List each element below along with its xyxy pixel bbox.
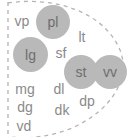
node-label: dl — [54, 82, 65, 96]
node-label: lt — [79, 30, 86, 44]
node-label: mg — [15, 82, 34, 96]
node-label: pl — [48, 15, 59, 29]
node-label: st — [76, 65, 87, 79]
node-lt: lt — [73, 28, 91, 46]
node-label: vd — [17, 119, 32, 133]
node-dp: dp — [74, 92, 100, 110]
node-label: dp — [79, 94, 95, 108]
node-mg: mg — [11, 80, 39, 98]
node-label: vp — [15, 14, 30, 28]
cluster-diagram: vpplltlgsfstvvmgdldgdkdpvd — [0, 0, 129, 137]
node-label: sf — [56, 46, 67, 60]
node-pl: pl — [36, 5, 70, 39]
node-vp: vp — [10, 12, 34, 30]
node-vd: vd — [12, 117, 36, 135]
node-label: dk — [55, 103, 70, 117]
node-vv: vv — [93, 55, 127, 89]
node-label: lg — [25, 48, 36, 62]
node-lg: lg — [13, 37, 48, 72]
node-label: vv — [103, 65, 117, 79]
node-label: dg — [17, 100, 33, 114]
node-dl: dl — [50, 80, 68, 98]
node-dk: dk — [50, 101, 74, 119]
node-dg: dg — [12, 98, 38, 116]
